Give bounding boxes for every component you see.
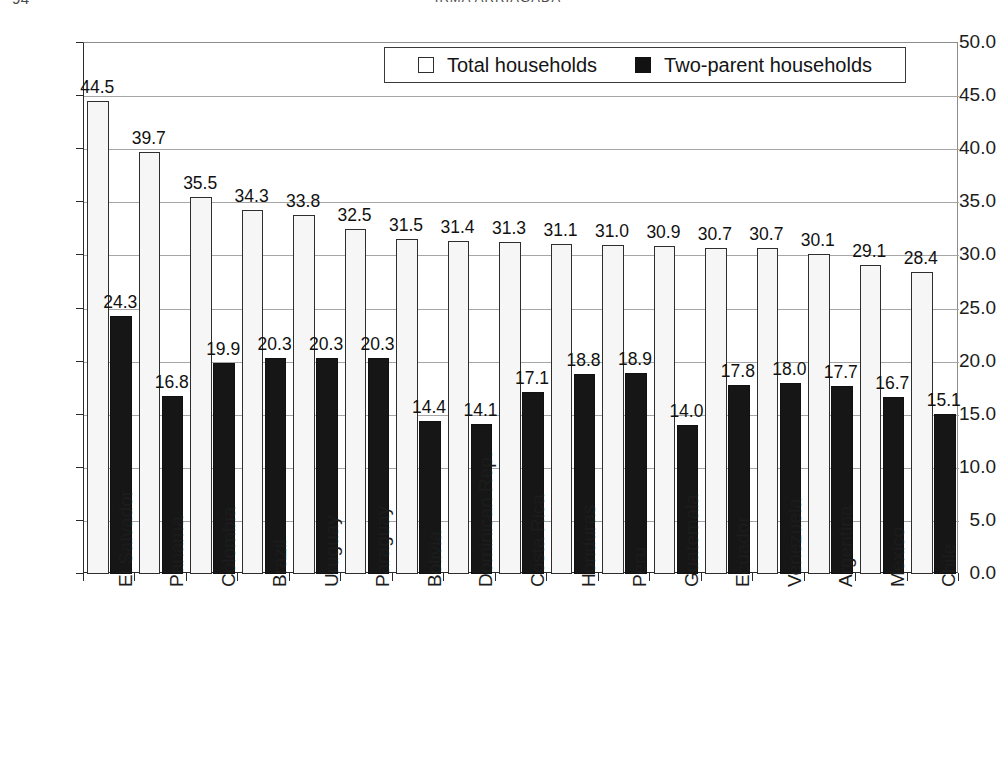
category-label: Bolivia	[425, 531, 444, 587]
bar-value-two-parent: 17.7	[822, 364, 860, 382]
bar-value-two-parent: 14.1	[462, 402, 500, 420]
bar-total-households	[757, 248, 779, 574]
bar-total-households	[499, 242, 521, 574]
legend-swatch-total-icon	[418, 57, 434, 73]
bar-value-two-parent: 14.0	[668, 403, 706, 421]
y-axis-tick-mark	[76, 573, 83, 574]
category-label: Ecuador	[733, 516, 752, 587]
bar-value-total: 29.1	[852, 243, 888, 261]
category-label: Costa Rica	[528, 494, 547, 587]
bar-value-total: 30.7	[697, 226, 733, 244]
bar-total-households	[87, 101, 109, 574]
category-label: Guatemala	[682, 494, 701, 587]
category-label: Uruguay	[322, 515, 341, 587]
bar-value-two-parent: 20.3	[359, 336, 397, 354]
category-label: Panama	[167, 516, 186, 587]
bar-value-two-parent: 20.3	[256, 336, 294, 354]
category-label: El Salvador	[116, 490, 135, 587]
bar-value-total: 30.9	[646, 224, 682, 242]
bar-value-total: 31.3	[491, 220, 527, 238]
plot-area	[83, 42, 958, 573]
gridline	[84, 96, 959, 97]
bar-total-households	[602, 245, 624, 574]
category-label: Brazil	[270, 539, 289, 587]
category-label: Peru	[630, 547, 649, 587]
legend-entry-total-households: Total households	[418, 55, 597, 75]
bar-value-two-parent: 17.1	[513, 370, 551, 388]
category-label: Paraguay	[373, 506, 392, 587]
bar-value-two-parent: 18.9	[616, 351, 654, 369]
bar-value-total: 31.0	[594, 223, 630, 241]
y-axis-tick-mark	[76, 42, 83, 43]
bar-value-total: 31.1	[543, 222, 579, 240]
category-label: Colombia	[219, 507, 238, 587]
legend-label-total: Total households	[447, 55, 597, 75]
y-axis-tick-mark	[76, 467, 83, 468]
category-label: Mexico	[888, 527, 907, 587]
category-label: Venezuela	[785, 498, 804, 587]
legend-entry-two-parent-households: Two-parent households	[635, 55, 872, 75]
bar-two-parent-households	[625, 373, 647, 574]
bar-value-two-parent: 18.8	[565, 352, 603, 370]
legend-swatch-two-parent-icon	[635, 57, 651, 73]
bar-value-total: 31.4	[440, 219, 476, 237]
y-axis-tick-mark	[76, 361, 83, 362]
legend-label-two-parent: Two-parent households	[664, 55, 872, 75]
bar-total-households	[190, 197, 212, 574]
bar-value-two-parent: 14.4	[410, 399, 448, 417]
bar-value-two-parent: 16.8	[153, 374, 191, 392]
category-label: Honduras	[579, 505, 598, 587]
bar-total-households	[551, 244, 573, 574]
gridline	[84, 202, 959, 203]
bar-value-total: 39.7	[131, 130, 167, 148]
bar-total-households	[293, 215, 315, 574]
category-label: Dominican Rep.	[476, 452, 495, 587]
bar-value-two-parent: 15.1	[925, 392, 963, 410]
bar-value-two-parent: 20.3	[307, 336, 345, 354]
bar-total-households	[345, 229, 367, 574]
bar-value-total: 32.5	[337, 207, 373, 225]
bar-total-households	[139, 152, 161, 574]
bar-value-total: 31.5	[388, 217, 424, 235]
bar-chart: 0.05.010.015.020.025.030.035.040.045.050…	[0, 0, 996, 765]
y-axis-tick-mark	[76, 148, 83, 149]
y-axis-tick-mark	[76, 308, 83, 309]
y-axis-tick-mark	[76, 520, 83, 521]
bar-value-total: 34.3	[234, 188, 270, 206]
chart-legend: Total households Two-parent households	[384, 47, 906, 83]
bar-value-total: 35.5	[182, 175, 218, 193]
x-axis-tick-mark	[83, 573, 84, 581]
y-axis-tick-mark	[76, 201, 83, 202]
y-axis-tick-mark	[76, 414, 83, 415]
bar-value-two-parent: 19.9	[204, 341, 242, 359]
bar-value-two-parent: 18.0	[771, 361, 809, 379]
bar-total-households	[808, 254, 830, 574]
bar-total-households	[242, 210, 264, 574]
category-label: Chile	[939, 544, 958, 587]
bar-total-households	[860, 265, 882, 574]
bar-value-total: 44.5	[79, 79, 115, 97]
bar-value-two-parent: 16.7	[874, 375, 912, 393]
bar-value-total: 33.8	[285, 193, 321, 211]
y-axis-tick-mark	[76, 254, 83, 255]
gridline	[84, 149, 959, 150]
category-label: Argentina	[836, 506, 855, 587]
bar-total-households	[705, 248, 727, 574]
bar-value-total: 30.7	[749, 226, 785, 244]
bar-total-households	[911, 272, 933, 574]
bar-value-total: 28.4	[903, 250, 939, 268]
bar-value-two-parent: 17.8	[719, 363, 757, 381]
bar-value-two-parent: 24.3	[101, 294, 139, 312]
bar-value-total: 30.1	[800, 232, 836, 250]
